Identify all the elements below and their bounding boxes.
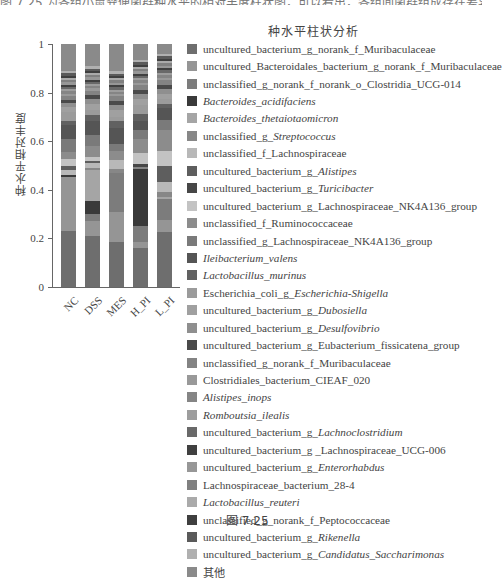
legend-swatch	[187, 340, 197, 350]
legend-label: uncultured_bacterium_g_Rikenella	[203, 531, 360, 543]
legend-label: unclassified_g_norank_f_Muribaculaceae	[203, 357, 391, 369]
legend-label: uncultured_bacterium_g _Lachnospiraceae_…	[203, 444, 446, 456]
legend-swatch	[187, 392, 197, 402]
legend-swatch	[187, 375, 197, 385]
legend-label: unclassified_g_norank_f_norank_o_Clostri…	[203, 78, 461, 90]
y-tick	[48, 44, 52, 45]
bar-segment	[157, 220, 172, 232]
bar-segment	[61, 125, 76, 139]
legend-swatch	[187, 462, 197, 472]
legend-item: Clostridiales_bacterium_CIEAF_020	[187, 371, 482, 388]
legend-swatch	[187, 96, 197, 106]
bar-segment	[157, 182, 172, 192]
legend-item: uncultured_bacterium_g_Dubosiella	[187, 302, 482, 319]
bar-mes	[109, 44, 124, 287]
bar-segment	[109, 242, 124, 287]
legend-label: uncultured_bacterium_g_Enterorhabdus	[203, 461, 384, 473]
bar-segment	[157, 108, 172, 120]
legend-item: uncultured_bacterium_g_Turicibacter	[187, 180, 482, 197]
bar-segment	[109, 128, 124, 144]
legend-item: uncultured_bacterium_g_Enterorhabdus	[187, 459, 482, 476]
legend-swatch	[187, 515, 197, 525]
bar-segment	[109, 160, 124, 169]
legend-label: Clostridiales_bacterium_CIEAF_020	[203, 374, 370, 386]
y-tick	[48, 190, 52, 191]
bar-segment	[133, 153, 148, 164]
bar-segment	[85, 135, 100, 146]
legend-swatch	[187, 79, 197, 89]
legend-item: Escherichia_coli_g_Escherichia-Shigella	[187, 284, 482, 301]
legend-swatch	[187, 253, 197, 263]
legend-label: Lactobacillus_murinus	[203, 269, 306, 281]
y-tick-label: 1	[4, 38, 44, 50]
legend-item: uncultured_bacterium_g_Rikenella	[187, 528, 482, 545]
legend-label: uncultured_bacterium_g_Eubacterium_fissi…	[203, 339, 460, 351]
chart-title: 种水平柱状分析	[268, 22, 359, 39]
legend-item: unclassified_f_Lachnospiraceae	[187, 145, 482, 162]
bar-segment	[133, 44, 148, 60]
bar-segment	[133, 121, 148, 130]
bar-segment	[85, 44, 100, 66]
bar-segment	[61, 177, 76, 231]
legend-label: uncultured_bacterium_g_Lachnoclostridium	[203, 426, 402, 438]
legend-item: unclassified_g_Streptococcus	[187, 127, 482, 144]
legend-swatch	[187, 236, 197, 246]
y-tick-label: 0.6	[4, 135, 44, 147]
legend-swatch	[187, 113, 197, 123]
bar-segment	[157, 232, 172, 287]
bar-segment	[133, 169, 148, 226]
bar-segment	[109, 212, 124, 242]
legend-item: uncultured_bacterium_g_Candidatus_Saccha…	[187, 546, 482, 563]
legend-label: unclassified_g_Lachnospiraceae_NK4A136_g…	[203, 235, 432, 247]
legend-label: Lactobacillus_reuteri	[203, 496, 300, 508]
legend-item: Bacteroides_thetaiotaomicron	[187, 110, 482, 127]
legend-item: uncultured_bacterium_g_Alistipes	[187, 162, 482, 179]
legend-label: Romboutsia_ilealis	[203, 409, 289, 421]
legend-swatch	[187, 148, 197, 158]
legend-label: unclassified_g_Streptococcus	[203, 130, 336, 142]
legend-item: uncultured_bacterium_g_Desulfovibrio	[187, 319, 482, 336]
legend-item: unclassified_g_Lachnospiraceae_NK4A136_g…	[187, 232, 482, 249]
legend-label: uncultured_bacterium_g_Alistipes	[203, 165, 357, 177]
legend-item: Lachnospiraceae_bacterium_28-4	[187, 476, 482, 493]
legend-item: unclassified_g_norank_f_Muribaculaceae	[187, 354, 482, 371]
bar-segment	[61, 152, 76, 159]
legend-label: Alistipes_inops	[203, 391, 271, 403]
bar-segment	[85, 201, 100, 214]
legend-label: uncultured_bacterium_g_Candidatus_Saccha…	[203, 548, 444, 560]
bar-segment	[109, 121, 124, 128]
bar-h-pi	[133, 44, 148, 287]
bar-segment	[133, 105, 148, 114]
bar-segment	[85, 236, 100, 287]
y-tick-label: 0.2	[4, 232, 44, 244]
bar-segment	[133, 130, 148, 139]
figure-caption: 图 7.25	[226, 511, 269, 528]
y-tick-label: 0	[4, 281, 44, 293]
legend-swatch	[187, 480, 197, 490]
legend-item: 其他	[187, 563, 482, 580]
x-axis-line	[52, 287, 180, 288]
legend-label: uncultured_Bacteroidales_bacterium_g_nor…	[203, 60, 502, 72]
legend-label: uncultured_bacterium_g_Lachnospiraceae_N…	[203, 200, 477, 212]
legend-label: Ileibacterium_valens	[203, 252, 297, 264]
bar-segment	[85, 104, 100, 111]
bar-segment	[133, 114, 148, 121]
bar-segment	[133, 242, 148, 249]
legend-swatch	[187, 427, 197, 437]
legend-swatch	[187, 270, 197, 280]
y-tick	[48, 287, 52, 288]
legend-item: Bacteroides_acidifaciens	[187, 92, 482, 109]
legend-swatch	[187, 549, 197, 559]
bar-segment	[157, 151, 172, 165]
bar-segment	[61, 231, 76, 287]
legend-item: Alistipes_inops	[187, 389, 482, 406]
bar-segment	[133, 226, 148, 242]
bar-segment	[85, 121, 100, 134]
legend-swatch	[187, 44, 197, 54]
bar-segment	[85, 221, 100, 236]
legend-label: Escherichia_coli_g_Escherichia-Shigella	[203, 287, 388, 299]
bar-segment	[109, 173, 124, 212]
legend-label: Lachnospiraceae_bacterium_28-4	[203, 479, 355, 491]
y-tick-label: 0.4	[4, 184, 44, 196]
legend-swatch	[187, 61, 197, 71]
